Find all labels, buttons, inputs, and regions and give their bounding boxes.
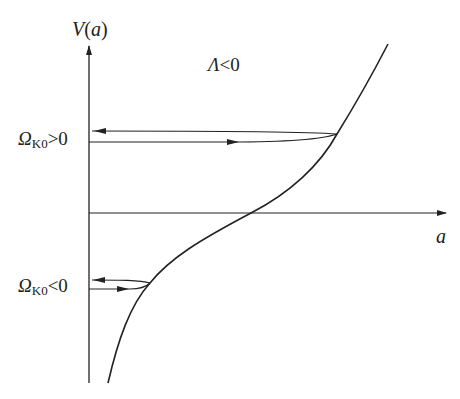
condition-label: Λ<0 (206, 54, 240, 75)
potential-diagram: V(a) Λ<0 a ΩK0>0 ΩK0<0 (0, 0, 460, 399)
x-axis-label: a (436, 225, 446, 247)
arrow-left-icon (94, 128, 106, 134)
arrow-left-icon (93, 277, 105, 283)
y-axis-label: V(a) (72, 18, 108, 41)
level-label-positive: ΩK0>0 (18, 128, 68, 151)
trajectory-omega-negative (89, 277, 150, 292)
arrow-right-icon (117, 286, 129, 292)
arrow-right-icon (227, 139, 239, 145)
level-label-negative: ΩK0<0 (18, 275, 68, 298)
trajectory-omega-positive (89, 128, 337, 145)
